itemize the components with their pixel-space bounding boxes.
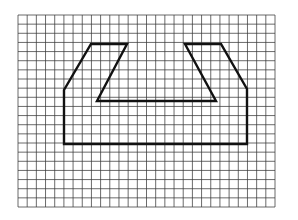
grid-diagram <box>0 0 298 220</box>
square-grid <box>18 15 275 207</box>
